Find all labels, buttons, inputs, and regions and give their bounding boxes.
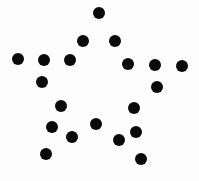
dot-marker	[12, 53, 24, 65]
dot-marker	[90, 118, 102, 130]
dot-marker	[93, 7, 105, 19]
dot-marker	[55, 100, 67, 112]
dot-marker	[46, 121, 58, 133]
dot-marker	[128, 102, 140, 114]
dot-marker	[176, 60, 188, 72]
dot-marker	[113, 134, 125, 146]
dot-marker	[77, 35, 89, 47]
dot-marker	[130, 126, 142, 138]
dot-pattern-canvas	[0, 0, 199, 181]
dot-marker	[151, 81, 163, 93]
dot-marker	[122, 58, 134, 70]
dot-marker	[109, 35, 121, 47]
dot-marker	[66, 131, 78, 143]
dot-marker	[149, 59, 161, 71]
dot-marker	[36, 76, 48, 88]
dot-marker	[38, 54, 50, 66]
dot-marker	[64, 54, 76, 66]
dot-marker	[135, 153, 147, 165]
dot-marker	[40, 148, 52, 160]
